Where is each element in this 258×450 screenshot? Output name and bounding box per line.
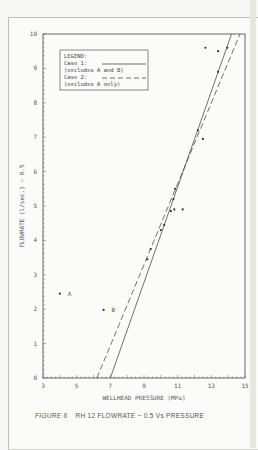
x-tick-label: 9 bbox=[142, 382, 146, 389]
y-tick-label: 10 bbox=[30, 30, 38, 37]
data-point bbox=[182, 208, 184, 210]
data-point bbox=[174, 188, 176, 190]
data-point bbox=[170, 210, 172, 212]
x-tick-label: 5 bbox=[75, 382, 79, 389]
data-point bbox=[146, 258, 148, 260]
y-tick-label: 7 bbox=[33, 133, 37, 140]
figure-number: FIGURE 6 bbox=[35, 412, 67, 419]
data-point bbox=[163, 224, 165, 226]
data-point bbox=[226, 47, 228, 49]
figure-title: RH 12 FLOWRATE ~ 0.5 Vs PRESSURE bbox=[75, 412, 204, 419]
y-tick-label: 5 bbox=[33, 202, 37, 209]
x-tick-label: 3 bbox=[41, 382, 45, 389]
y-tick-label: 9 bbox=[33, 64, 37, 71]
y-tick-label: 8 bbox=[33, 99, 37, 106]
data-point bbox=[197, 129, 199, 131]
data-point bbox=[217, 50, 219, 52]
data-point bbox=[103, 309, 105, 311]
legend: LEGEND: Case 1: (excludes A and B) Case … bbox=[60, 50, 148, 90]
x-axis-label: WELLHEAD PRESSURE (MPa) bbox=[102, 394, 185, 401]
data-point bbox=[160, 229, 162, 231]
y-tick-label: 2 bbox=[33, 305, 37, 312]
y-tick-label: 3 bbox=[33, 271, 37, 278]
y-tick-label: 6 bbox=[33, 168, 37, 175]
data-point bbox=[204, 47, 206, 49]
data-point bbox=[59, 293, 61, 295]
y-axis-label: FLOWRATE (l/sec.) ~ 0.5 bbox=[18, 164, 25, 247]
data-point bbox=[172, 198, 174, 200]
data-point bbox=[217, 71, 219, 73]
figure-caption: FIGURE 6RH 12 FLOWRATE ~ 0.5 Vs PRESSURE bbox=[35, 412, 204, 419]
legend-case2-note: (excludes A only) bbox=[64, 81, 120, 88]
y-tick-label: 0 bbox=[33, 374, 37, 381]
x-tick-label: 15 bbox=[241, 382, 249, 389]
point-label: B bbox=[112, 306, 116, 313]
y-tick-label: 4 bbox=[33, 236, 37, 243]
legend-case1-label: Case 1: bbox=[64, 60, 87, 66]
legend-case2-label: Case 2: bbox=[64, 74, 87, 80]
point-label: A bbox=[68, 290, 72, 297]
x-tick-label: 11 bbox=[174, 382, 182, 389]
x-tick-label: 7 bbox=[109, 382, 113, 389]
data-point bbox=[173, 208, 175, 210]
data-point bbox=[150, 248, 152, 250]
data-point bbox=[202, 138, 204, 140]
x-tick-label: 13 bbox=[208, 382, 216, 389]
legend-case1-note: (excludes A and B) bbox=[64, 67, 124, 73]
legend-title: LEGEND: bbox=[64, 53, 87, 59]
y-tick-label: 1 bbox=[33, 340, 37, 347]
